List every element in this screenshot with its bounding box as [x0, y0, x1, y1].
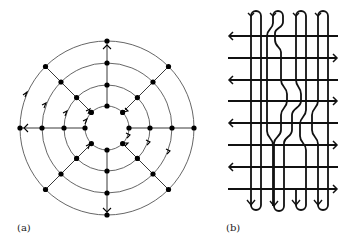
figure-b-braid: [0, 0, 355, 242]
panel-b-label: (b): [226, 222, 240, 233]
arrowhead-icons: [229, 32, 337, 193]
horizontal-strands: [228, 36, 338, 189]
panel-a-label: (a): [17, 222, 31, 233]
vertical-loops: [251, 11, 328, 211]
